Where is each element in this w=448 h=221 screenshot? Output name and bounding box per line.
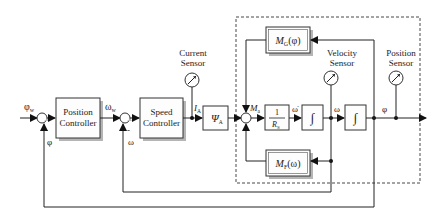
current-sensor-label-2: Sensor bbox=[181, 58, 206, 68]
position-sensor-gauge-icon bbox=[389, 71, 403, 85]
m-a-label: Ma bbox=[249, 103, 261, 114]
omega-label: ω bbox=[334, 104, 340, 114]
wire bbox=[246, 124, 266, 161]
mg-label: MG(φ) bbox=[274, 35, 300, 47]
mf-label: MF(ω) bbox=[275, 158, 301, 170]
speed-controller-label-2: Controller bbox=[143, 118, 180, 128]
velocity-sensor-label-2: Sensor bbox=[330, 58, 355, 68]
position-sensor-label-2: Sensor bbox=[389, 58, 414, 68]
inverse-rs-numerator: 1 bbox=[275, 108, 279, 117]
control-block-diagram: φw - Position Controller ωw - Speed Cont… bbox=[0, 0, 448, 221]
omega-dot-label: ω̇ bbox=[292, 104, 299, 114]
speed-summing-junction bbox=[120, 113, 130, 123]
phi-label: φ bbox=[382, 104, 387, 114]
current-sensor-gauge-icon bbox=[185, 73, 199, 87]
wire bbox=[246, 40, 266, 112]
omega-feedback-label: ω bbox=[128, 137, 134, 147]
velocity-sensor-label-1: Velocity bbox=[327, 48, 357, 58]
speed-controller-label-1: Speed bbox=[151, 107, 173, 117]
minus-sign: - bbox=[45, 125, 48, 135]
current-sensor-label-1: Current bbox=[179, 48, 207, 58]
minus-sign: - bbox=[127, 125, 130, 135]
phi-feedback-label: φ bbox=[47, 137, 52, 147]
plant-boundary bbox=[236, 17, 420, 183]
position-controller-label-1: Position bbox=[63, 107, 93, 117]
phi-w-label: φw bbox=[24, 101, 35, 113]
position-sensor-label-1: Position bbox=[386, 48, 416, 58]
position-summing-junction bbox=[37, 113, 47, 123]
junction-dot bbox=[190, 116, 194, 120]
position-controller-label-2: Controller bbox=[60, 118, 97, 128]
torque-summing-junction bbox=[241, 113, 251, 123]
omega-w-label: ωw bbox=[105, 101, 117, 113]
velocity-sensor-gauge-icon bbox=[324, 71, 338, 85]
i-a-label: IA bbox=[193, 103, 201, 114]
